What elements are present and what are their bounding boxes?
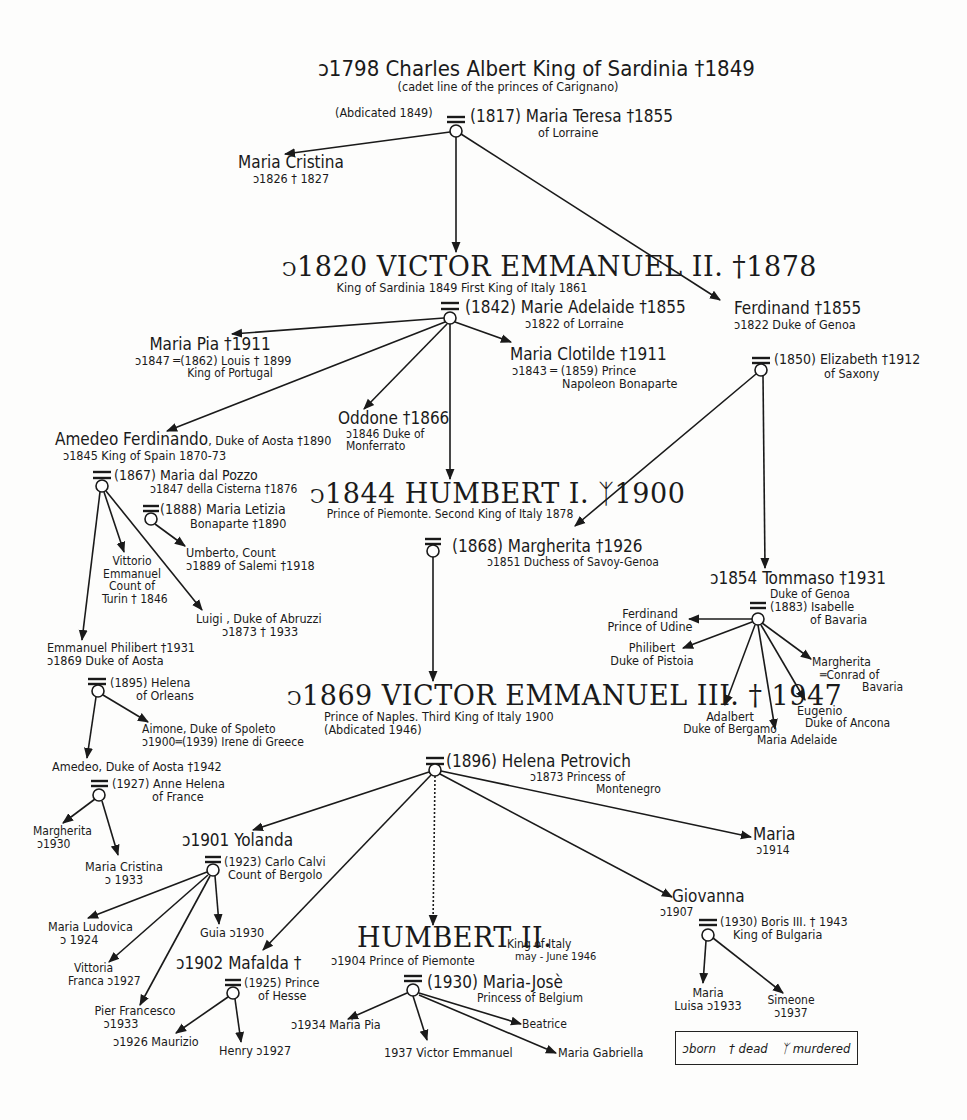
person-maria-1914: Maria ↄ1914 — [753, 826, 793, 856]
victor-emmanuel-ii-title: King of Sardinia 1849 First King of Ital… — [282, 281, 642, 294]
victor-emmanuel-iii-abdicated: (Abdicated 1946) — [287, 723, 842, 736]
marriage-symbol-amedeo-aosta — [91, 781, 108, 801]
maria-1914-name: Maria — [753, 826, 793, 844]
elizabeth-name: (1850) Elizabeth †1912 — [774, 352, 920, 367]
genealogy-chart: ↄ1798 Charles Albert King of Sardinia †1… — [0, 0, 967, 1120]
person-helena-petrovich: (1896) Helena Petrovich ↄ1873 Princess o… — [446, 753, 661, 796]
person-helena-orleans: (1895) Helena of Orleans — [110, 676, 194, 702]
charles-albert-note: (cadet line of the princes of Carignano) — [318, 80, 698, 93]
aimone-name: Aimone, Duke of Spoleto — [142, 723, 304, 736]
humbert-i-name: ↄ1844 HUMBERT I. ᛉ1900 — [310, 480, 590, 508]
charles-albert-abdicated: (Abdicated 1849) — [335, 106, 433, 119]
marriage-symbol-mafalda — [225, 980, 241, 999]
person-mafalda: ↄ1902 Mafalda † — [176, 955, 301, 973]
person-maria-cristina-1933: Maria Cristina ↄ 1933 — [74, 860, 174, 886]
maria-dal-pozzo-name: (1867) Maria dal Pozzo — [114, 468, 297, 483]
person-henry: Henry ↄ1927 — [219, 1044, 291, 1057]
vittoria-franca-name: Vittoria — [68, 962, 141, 975]
humbert-i-title: Prince of Piemonte. Second King of Italy… — [310, 508, 590, 521]
ferdinand-genoa-name: Ferdinand †1855 — [734, 300, 861, 318]
maria-cristina-1933-born: ↄ 1933 — [74, 873, 174, 886]
person-maria-cristina-1826: Maria Cristina ↄ1826 † 1827 — [226, 154, 356, 185]
simeone-born: ↄ1937 — [766, 1007, 816, 1020]
marriage-symbol-humbert-i — [425, 539, 441, 557]
person-maria-clotilde: Maria Clotilde †1911 ↄ1843 ═ (1859) Prin… — [510, 346, 678, 390]
vittoria-franca-born: Franca ↄ1927 — [68, 975, 141, 988]
marie-adelaide-origin: ↄ1822 of Lorraine — [465, 317, 686, 330]
person-beatrice: Beatrice — [522, 1018, 567, 1031]
vittorio-emmanuel-line1: Vittorio — [102, 555, 162, 568]
helena-orleans-origin: of Orleans — [110, 689, 194, 702]
humbert-ii-reign-dates: may - June 1946 — [507, 951, 596, 963]
person-oddone: Oddone †1866 ↄ1846 Duke of Monferrato — [338, 410, 449, 453]
person-prince-hesse: (1925) Prince of Hesse — [244, 976, 320, 1002]
maria-clotilde-marriage: ↄ1843 ═ (1859) Prince — [510, 364, 678, 377]
person-maria-teresa: (1817) Maria Teresa †1855 of Lorraine — [470, 108, 673, 139]
person-yolanda: ↄ1901 Yolanda — [182, 832, 293, 850]
umberto-salemi-dates: ↄ1889 of Salemi †1918 — [186, 559, 315, 572]
person-maria-pia-1934: ↄ1934 Maria Pia — [291, 1018, 381, 1031]
boris-iii-title: King of Bulgaria — [720, 928, 848, 941]
person-victor-emmanuel-1937: 1937 Victor Emmanuel — [384, 1046, 513, 1059]
marriage-symbol-victor-emmanuel-ii — [441, 303, 459, 324]
person-maria-letizia: (1888) Maria Letizia Bonaparte †1890 — [160, 502, 286, 530]
maria-jose-title: Princess of Belgium — [427, 992, 583, 1005]
person-simeone: Simeone ↄ1937 — [766, 994, 816, 1019]
person-margherita-1851: (1868) Margherita †1926 ↄ1851 Duchess of… — [452, 538, 659, 568]
marriage-symbol-giovanna — [699, 920, 717, 941]
maria-cristina-dates: ↄ1826 † 1827 — [226, 172, 356, 185]
victor-emmanuel-ii-name: ↄ1820 VICTOR EMMANUEL II. †1878 — [282, 253, 642, 281]
margherita-1930-name: Margherita — [33, 825, 92, 838]
legend-box: ↄborn † dead ᛉ murdered — [675, 1031, 858, 1065]
amedeo-ferdinando-spain: ↄ1845 King of Spain 1870-73 — [55, 449, 331, 462]
prince-hesse-origin: of Hesse — [244, 989, 320, 1002]
person-maria-gabriella: Maria Gabriella — [558, 1046, 643, 1059]
person-humbert-i: ↄ1844 HUMBERT I. ᛉ1900 Prince of Piemont… — [310, 480, 590, 521]
legend-murdered: ᛉ murdered — [781, 1041, 850, 1056]
maria-jose-name: (1930) Maria-Josè — [427, 974, 583, 992]
person-marie-adelaide: (1842) Marie Adelaide †1855 ↄ1822 of Lor… — [465, 299, 686, 330]
person-isabelle-bavaria: (1883) Isabelle of Bavaria — [770, 600, 867, 626]
maria-clotilde-spouse: Napoleon Bonaparte — [510, 377, 678, 390]
aimone-marriage: ↄ1900═(1939) Irene di Greece — [142, 736, 304, 749]
person-aimone: Aimone, Duke of Spoleto ↄ1900═(1939) Ire… — [142, 723, 304, 748]
philibert-title: Duke of Pistoia — [607, 654, 697, 667]
person-guia: Guia ↄ1930 — [200, 926, 264, 939]
victor-emmanuel-iii-name: ↄ1869 VICTOR EMMANUEL III. † 1947 — [287, 682, 842, 710]
elizabeth-origin: of Saxony — [774, 367, 920, 380]
maria-pia-marriage: ↄ1847 ═(1862) Louis † 1899 — [135, 354, 285, 367]
person-ferdinand-udine: Ferdinand Prince of Udine — [605, 607, 695, 633]
margherita-tommaso-name: Margherita — [812, 656, 903, 669]
person-pier-francesco: Pier Francesco ↄ1933 — [85, 1004, 185, 1030]
person-maurizio: ↄ1926 Maurizio — [113, 1035, 199, 1048]
person-maria-dal-pozzo: (1867) Maria dal Pozzo ↄ1847 della Ciste… — [114, 468, 297, 495]
amedeo-ferdinando-title: , Duke of Aosta †1890 — [208, 433, 331, 448]
person-boris-iii: (1930) Boris III. † 1943 King of Bulgari… — [720, 915, 848, 941]
person-umberto-salemi: Umberto, Count ↄ1889 of Salemi †1918 — [186, 546, 315, 572]
marie-adelaide-name: (1842) Marie Adelaide †1855 — [465, 299, 686, 317]
person-maria-jose: (1930) Maria-Josè Princess of Belgium — [427, 974, 583, 1004]
maria-luisa-born: Luisa ↄ1933 — [668, 999, 748, 1012]
vittorio-emmanuel-line3: Count of — [102, 580, 162, 593]
luigi-dates: ↄ1873 † 1933 — [196, 625, 322, 638]
emmanuel-philibert-title: ↄ1869 Duke of Aosta — [47, 654, 195, 667]
maria-letizia-dates: Bonaparte †1890 — [160, 517, 286, 530]
charles-albert-name: ↄ1798 Charles Albert King of Sardinia †1… — [318, 57, 698, 80]
person-carlo-calvi: (1923) Carlo Calvi Count of Bergolo — [224, 855, 326, 881]
maria-pia-name: Maria Pia †1911 — [135, 336, 285, 354]
person-philibert-pistoia: Philibert Duke of Pistoia — [607, 641, 697, 667]
person-victor-emmanuel-iii: ↄ1869 VICTOR EMMANUEL III. † 1947 Prince… — [287, 682, 842, 737]
anne-helena-origin: of France — [112, 790, 225, 803]
tommaso-name: ↄ1854 Tommaso †1931 — [710, 570, 886, 588]
person-margherita-1930: Margherita ↄ1930 — [33, 825, 92, 850]
person-amedeo-ferdinando: Amedeo Ferdinando, Duke of Aosta †1890 ↄ… — [55, 431, 331, 462]
person-vittorio-emmanuel-turin: Vittorio Emmanuel Count of Turin † 1846 — [102, 555, 162, 605]
marriage-symbol-emmanuel-philibert — [88, 679, 106, 697]
maria-teresa-name: (1817) Maria Teresa †1855 — [470, 108, 673, 126]
marriage-symbol-tommaso — [750, 603, 766, 625]
oddone-name: Oddone †1866 — [338, 410, 449, 428]
margherita-title: ↄ1851 Duchess of Savoy-Genoa — [452, 556, 659, 569]
person-victor-emmanuel-ii: ↄ1820 VICTOR EMMANUEL II. †1878 King of … — [282, 253, 642, 294]
amedeo-ferdinando-name: Amedeo Ferdinando — [55, 429, 208, 449]
maria-pia-spouse-title: King of Portugal — [135, 367, 285, 380]
